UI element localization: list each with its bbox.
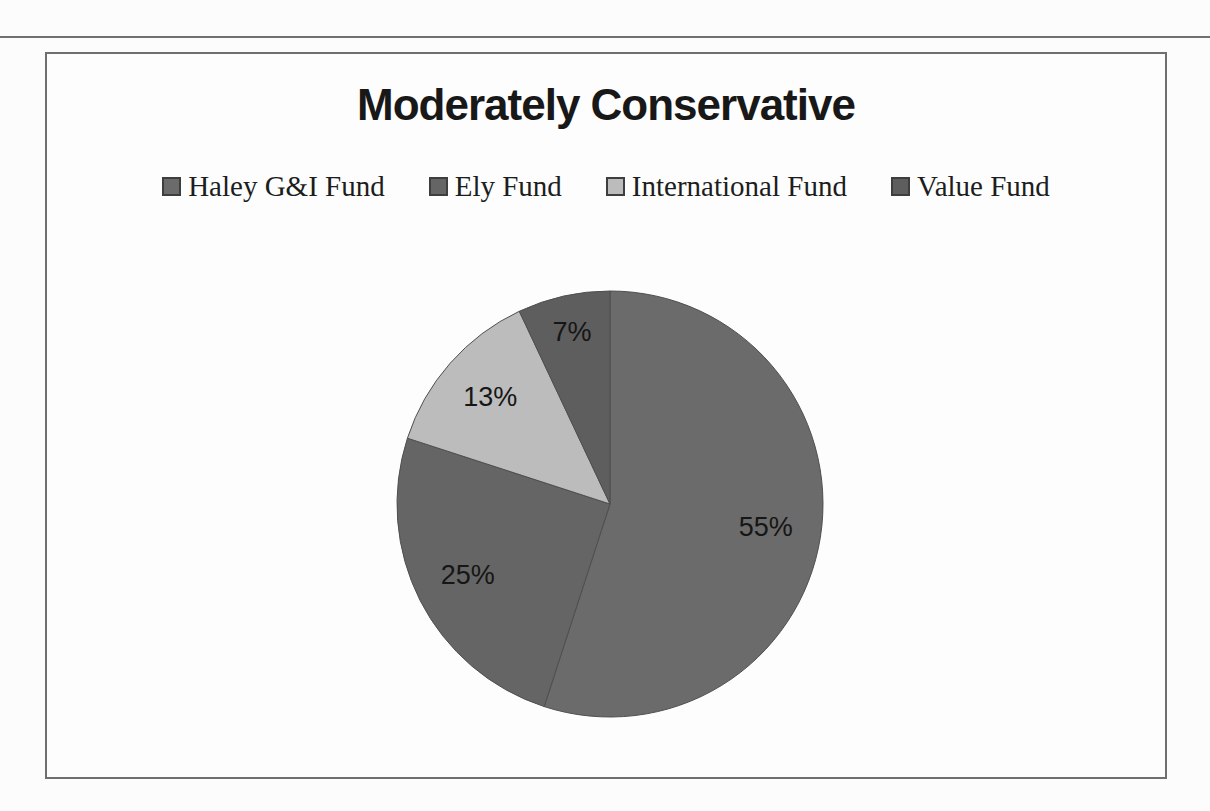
legend-label: International Fund (632, 170, 847, 203)
legend-item: Haley G&I Fund (162, 170, 385, 203)
legend-label: Ely Fund (455, 170, 562, 203)
legend-swatch-icon (606, 177, 625, 196)
chart-legend: Haley G&I FundEly FundInternational Fund… (47, 170, 1165, 203)
pie-slice-label: 7% (552, 317, 591, 347)
page-top-rule (0, 36, 1210, 38)
page: Moderately Conservative Haley G&I FundEl… (0, 0, 1210, 811)
legend-item: Value Fund (891, 170, 1050, 203)
pie-slice-label: 13% (463, 382, 517, 412)
pie-slice-label: 25% (441, 560, 495, 590)
chart-frame: Moderately Conservative Haley G&I FundEl… (45, 52, 1167, 779)
legend-label: Value Fund (917, 170, 1050, 203)
legend-label: Haley G&I Fund (188, 170, 385, 203)
chart-title: Moderately Conservative (47, 80, 1165, 130)
legend-swatch-icon (429, 177, 448, 196)
legend-swatch-icon (891, 177, 910, 196)
pie-slice-label: 55% (739, 512, 793, 542)
legend-item: International Fund (606, 170, 847, 203)
pie-chart: 55%25%13%7% (388, 282, 832, 726)
legend-item: Ely Fund (429, 170, 562, 203)
legend-swatch-icon (162, 177, 181, 196)
